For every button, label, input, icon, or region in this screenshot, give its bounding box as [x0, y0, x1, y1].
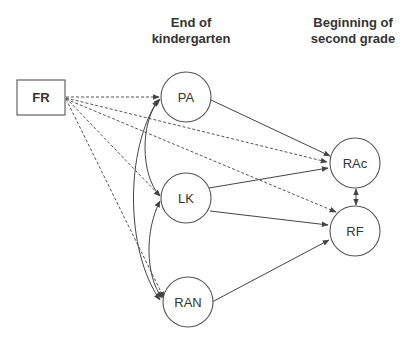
node-rf: RF: [330, 206, 380, 256]
header-kindergarten-line1: End of: [171, 15, 212, 30]
node-rf-label: RF: [346, 224, 363, 239]
covariance-pa-lk: [145, 99, 160, 196]
node-ran: RAN: [163, 277, 213, 327]
edge-lk-rf: [210, 211, 328, 225]
edge-ran-rf: [212, 240, 329, 302]
header-second-grade-line2: second grade: [311, 31, 396, 46]
header-kindergarten-line2: kindergarten: [152, 31, 231, 46]
node-lk-label: LK: [178, 191, 194, 206]
node-pa-label: PA: [178, 90, 195, 105]
node-rac-label: RAc: [343, 156, 368, 171]
edge-fr-ran: [66, 99, 164, 298]
node-fr: FR: [17, 80, 65, 115]
node-lk: LK: [161, 173, 211, 223]
path-diagram: End of kindergarten Beginning of second …: [0, 0, 404, 340]
node-fr-label: FR: [32, 90, 50, 105]
edge-lk-rac: [209, 168, 328, 188]
node-ran-label: RAN: [174, 295, 201, 310]
edge-pa-rac: [211, 100, 330, 156]
header-second-grade-line1: Beginning of: [313, 15, 393, 30]
node-pa: PA: [161, 72, 211, 122]
edge-fr-lk: [66, 98, 160, 196]
node-rac: RAc: [330, 138, 380, 188]
